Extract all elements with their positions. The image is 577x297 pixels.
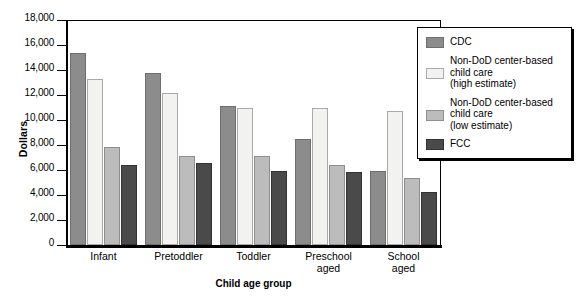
x-axis-title: Child age group: [66, 278, 441, 289]
x-axis-tick-label: Schoolaged: [366, 250, 441, 274]
bar[interactable]: [162, 93, 178, 246]
y-axis-title: Dollars: [17, 94, 29, 184]
bar[interactable]: [421, 192, 437, 245]
y-axis-tick-mark: [57, 45, 66, 46]
bar[interactable]: [104, 147, 120, 245]
y-axis-tick-label: 12,000: [25, 87, 54, 98]
legend-label: Non-DoD center-based child care (low est…: [450, 97, 553, 132]
bar-group: [216, 20, 291, 245]
y-axis-tick-label: 2,000: [30, 212, 54, 223]
x-axis-tick-label: Pretoddler: [141, 250, 216, 274]
legend-item[interactable]: FCC: [426, 138, 565, 150]
y-axis-tick-mark: [57, 220, 66, 221]
legend-swatch: [426, 110, 444, 121]
chart-canvas: Dollars 18,00016,00014,00012,00010,0008,…: [0, 0, 577, 297]
bar[interactable]: [370, 171, 386, 245]
y-axis-tick-mark: [57, 120, 66, 121]
bar[interactable]: [145, 73, 161, 245]
x-axis-tick-label: Toddler: [216, 250, 291, 274]
bar-group: [141, 20, 216, 245]
bar[interactable]: [312, 108, 328, 245]
y-axis-tick-mark: [57, 70, 66, 71]
bar[interactable]: [404, 178, 420, 245]
chart-legend: CDCNon-DoD center-based child care (high…: [417, 27, 572, 159]
legend-label: FCC: [450, 138, 471, 150]
x-axis-tick-label: Infant: [66, 250, 141, 274]
bar[interactable]: [220, 106, 236, 245]
y-axis-tick-mark: [57, 20, 66, 21]
bar-group: [291, 20, 366, 245]
y-axis-tick-mark: [57, 170, 66, 171]
legend-swatch: [426, 37, 444, 48]
x-axis-baseline: [66, 245, 442, 248]
y-axis-tick-label: 4,000: [30, 187, 54, 198]
bar[interactable]: [196, 163, 212, 245]
bar[interactable]: [387, 111, 403, 245]
bar[interactable]: [121, 165, 137, 245]
y-axis-tick-label: 16,000: [25, 37, 54, 48]
legend-label: CDC: [450, 36, 472, 48]
bar[interactable]: [295, 139, 311, 245]
bar[interactable]: [70, 53, 86, 246]
bar-group: [66, 20, 141, 245]
y-axis-tick-label: 10,000: [25, 112, 54, 123]
bar[interactable]: [346, 172, 362, 245]
bar[interactable]: [254, 156, 270, 245]
bar[interactable]: [179, 156, 195, 245]
y-axis-tick-mark: [57, 95, 66, 96]
legend-swatch: [426, 68, 444, 79]
y-axis-tick-label: 14,000: [25, 62, 54, 73]
legend-swatch: [426, 139, 444, 150]
bar[interactable]: [329, 165, 345, 245]
x-axis-tick-labels: InfantPretoddlerToddlerPreschoolagedScho…: [66, 250, 441, 274]
bar-groups: [66, 20, 441, 245]
y-axis-tick-mark: [57, 195, 66, 196]
legend-item[interactable]: CDC: [426, 36, 565, 48]
y-axis-tick-mark: [57, 245, 66, 246]
y-axis-tick-label: 6,000: [30, 162, 54, 173]
bar[interactable]: [271, 171, 287, 245]
bar[interactable]: [237, 108, 253, 246]
y-axis-tick-mark: [57, 145, 66, 146]
x-axis-tick-label: Preschoolaged: [291, 250, 366, 274]
y-axis-tick-label: 0: [49, 237, 54, 248]
bar[interactable]: [87, 79, 103, 245]
legend-label: Non-DoD center-based child care (high es…: [450, 55, 553, 90]
y-axis-tick-label: 8,000: [30, 137, 54, 148]
legend-item[interactable]: Non-DoD center-based child care (low est…: [426, 97, 565, 132]
y-axis-tick-label: 18,000: [25, 12, 54, 23]
legend-item[interactable]: Non-DoD center-based child care (high es…: [426, 55, 565, 90]
